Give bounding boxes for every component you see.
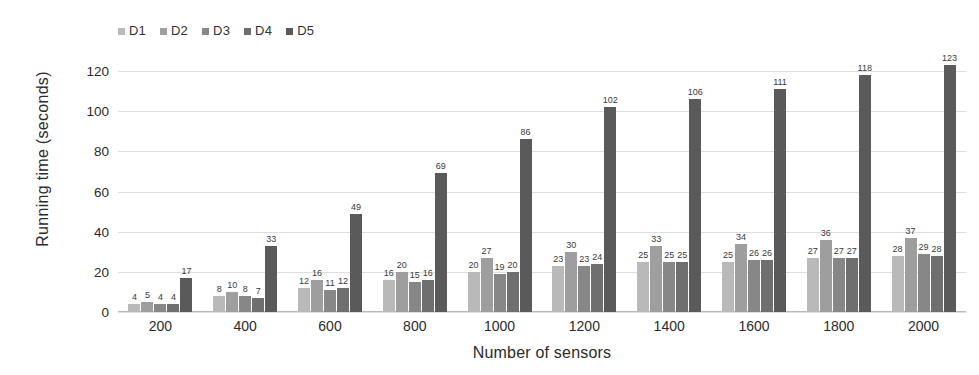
bar-rect bbox=[722, 262, 734, 312]
bar-d2[interactable]: 30 bbox=[565, 51, 577, 312]
bar-d5[interactable]: 118 bbox=[859, 51, 871, 312]
y-axis-tick-label: 20 bbox=[94, 264, 109, 279]
bar-rect bbox=[324, 290, 336, 312]
legend-item-d1[interactable]: D1 bbox=[118, 23, 146, 38]
bar-d1[interactable]: 12 bbox=[298, 51, 310, 312]
x-axis-tick-label: 800 bbox=[372, 318, 457, 334]
bar-d2[interactable]: 10 bbox=[226, 51, 238, 312]
bar-rect bbox=[650, 246, 662, 312]
bar-d4[interactable]: 4 bbox=[167, 51, 179, 312]
bar-rect bbox=[735, 244, 747, 312]
bar-d1[interactable]: 28 bbox=[892, 51, 904, 312]
bar-value-label: 111 bbox=[773, 78, 787, 87]
bar-value-label: 28 bbox=[932, 245, 942, 254]
bar-d4[interactable]: 7 bbox=[252, 51, 264, 312]
bar-d5[interactable]: 17 bbox=[180, 51, 192, 312]
bar-d2[interactable]: 34 bbox=[735, 51, 747, 312]
bar-d3[interactable]: 4 bbox=[154, 51, 166, 312]
bar-d4[interactable]: 26 bbox=[761, 51, 773, 312]
bar-d5[interactable]: 86 bbox=[520, 51, 532, 312]
bar-d4[interactable]: 27 bbox=[846, 51, 858, 312]
bar-d3[interactable]: 15 bbox=[409, 51, 421, 312]
bar-d4[interactable]: 24 bbox=[591, 51, 603, 312]
bar-d2[interactable]: 5 bbox=[141, 51, 153, 312]
bar-value-label: 5 bbox=[145, 291, 150, 300]
bar-d4[interactable]: 12 bbox=[337, 51, 349, 312]
legend-item-d4[interactable]: D4 bbox=[244, 23, 272, 38]
bar-d3[interactable]: 27 bbox=[833, 51, 845, 312]
bar-rect bbox=[337, 288, 349, 312]
bar-rect bbox=[931, 256, 943, 312]
bar-value-label: 4 bbox=[158, 293, 163, 302]
bar-d1[interactable]: 23 bbox=[552, 51, 564, 312]
bar-d1[interactable]: 25 bbox=[722, 51, 734, 312]
legend-label: D5 bbox=[297, 23, 314, 38]
bar-d2[interactable]: 20 bbox=[396, 51, 408, 312]
bar-value-label: 25 bbox=[664, 251, 674, 260]
bar-d1[interactable]: 20 bbox=[468, 51, 480, 312]
bar-group: 2027192086 bbox=[468, 51, 532, 312]
bar-d4[interactable]: 20 bbox=[507, 51, 519, 312]
bar-d5[interactable]: 102 bbox=[604, 51, 616, 312]
bar-value-label: 11 bbox=[325, 279, 334, 288]
bar-rect bbox=[435, 173, 447, 312]
bar-d2[interactable]: 33 bbox=[650, 51, 662, 312]
bar-rect bbox=[689, 99, 701, 312]
bar-d1[interactable]: 8 bbox=[213, 51, 225, 312]
bar-value-label: 36 bbox=[821, 229, 831, 238]
bar-d4[interactable]: 28 bbox=[931, 51, 943, 312]
bar-value-label: 102 bbox=[603, 96, 618, 105]
legend-label: D2 bbox=[171, 23, 188, 38]
bar-d5[interactable]: 69 bbox=[435, 51, 447, 312]
bar-d1[interactable]: 4 bbox=[128, 51, 140, 312]
bar-value-label: 26 bbox=[762, 249, 772, 258]
bar-group: 25332525106 bbox=[637, 51, 701, 312]
y-axis-tick-label: 120 bbox=[86, 64, 109, 79]
x-axis-tick-label: 1000 bbox=[457, 318, 542, 334]
bar-d5[interactable]: 111 bbox=[774, 51, 786, 312]
legend-item-d5[interactable]: D5 bbox=[286, 23, 314, 38]
legend-item-d2[interactable]: D2 bbox=[160, 23, 188, 38]
bar-rect bbox=[180, 278, 192, 312]
bar-d5[interactable]: 33 bbox=[265, 51, 277, 312]
bar-d3[interactable]: 11 bbox=[324, 51, 336, 312]
y-axis-title: Running time (seconds) bbox=[34, 34, 52, 284]
x-axis-tick-label: 1200 bbox=[542, 318, 627, 334]
bar-rect bbox=[748, 260, 760, 312]
bar-value-label: 16 bbox=[312, 269, 322, 278]
bar-value-label: 17 bbox=[181, 267, 191, 276]
bar-d3[interactable]: 25 bbox=[663, 51, 675, 312]
bar-d2[interactable]: 36 bbox=[820, 51, 832, 312]
bar-d1[interactable]: 27 bbox=[807, 51, 819, 312]
bar-value-label: 12 bbox=[299, 277, 309, 286]
bar-value-label: 25 bbox=[638, 251, 648, 260]
bar-d4[interactable]: 25 bbox=[676, 51, 688, 312]
bar-d3[interactable]: 26 bbox=[748, 51, 760, 312]
bar-d2[interactable]: 16 bbox=[311, 51, 323, 312]
bar-d5[interactable]: 49 bbox=[350, 51, 362, 312]
bar-d5[interactable]: 123 bbox=[944, 51, 956, 312]
bar-d1[interactable]: 25 bbox=[637, 51, 649, 312]
bar-rect bbox=[761, 260, 773, 312]
bar-d3[interactable]: 8 bbox=[239, 51, 251, 312]
legend-item-d3[interactable]: D3 bbox=[202, 23, 230, 38]
bar-d2[interactable]: 27 bbox=[481, 51, 493, 312]
bar-rect bbox=[154, 304, 166, 312]
bar-d3[interactable]: 19 bbox=[494, 51, 506, 312]
legend-label: D3 bbox=[213, 23, 230, 38]
bar-rect bbox=[350, 214, 362, 312]
bar-group: 454417 bbox=[128, 51, 192, 312]
bar-rect bbox=[637, 262, 649, 312]
bar-d1[interactable]: 16 bbox=[383, 51, 395, 312]
bar-d4[interactable]: 16 bbox=[422, 51, 434, 312]
x-axis-title: Number of sensors bbox=[118, 344, 966, 362]
bar-d3[interactable]: 29 bbox=[918, 51, 930, 312]
bar-group: 28372928123 bbox=[892, 51, 956, 312]
bar-rect bbox=[820, 240, 832, 312]
bar-value-label: 37 bbox=[906, 227, 916, 236]
bar-value-label: 16 bbox=[423, 269, 433, 278]
bar-d5[interactable]: 106 bbox=[689, 51, 701, 312]
bar-d3[interactable]: 23 bbox=[578, 51, 590, 312]
bar-d2[interactable]: 37 bbox=[905, 51, 917, 312]
bar-value-label: 123 bbox=[942, 54, 957, 63]
